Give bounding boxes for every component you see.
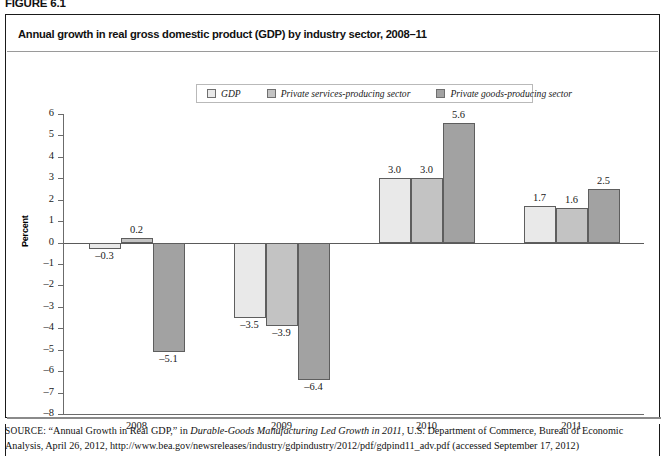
source-note: SOURCE: “Annual Growth in Real GDP,” in … xyxy=(5,424,660,452)
source-text-part1: “Annual Growth in Real GDP,” in xyxy=(46,425,190,436)
figure-container: Annual growth in real gross domestic pro… xyxy=(5,14,660,418)
source-prefix: SOURCE: xyxy=(5,426,46,436)
bar[interactable] xyxy=(121,238,153,242)
bar-value-label: –5.1 xyxy=(139,353,199,364)
y-axis-tick-label: –6 xyxy=(44,364,55,375)
bar[interactable] xyxy=(89,243,121,249)
bar-group-2011: 1.71.62.5 xyxy=(524,114,620,414)
y-axis-tick: –2 xyxy=(58,285,64,286)
y-axis-tick: –6 xyxy=(58,371,64,372)
y-axis-tick: –1 xyxy=(58,264,64,265)
y-axis-tick-label: –1 xyxy=(44,257,55,268)
bar[interactable] xyxy=(524,206,556,242)
y-axis-tick-label: 3 xyxy=(49,171,54,182)
y-axis-tick-label: –4 xyxy=(44,321,55,332)
bar[interactable] xyxy=(588,189,620,243)
bar[interactable] xyxy=(443,123,475,243)
bar[interactable] xyxy=(153,243,185,352)
y-axis-tick-label: –8 xyxy=(44,407,55,418)
y-axis-tick: –7 xyxy=(58,393,64,394)
bar-value-label: 2.5 xyxy=(574,175,634,186)
y-axis-tick-label: –5 xyxy=(44,343,55,354)
y-axis-tick: 1 xyxy=(58,221,64,222)
source-publication-title: Durable-Goods Manufacturing Led Growth i… xyxy=(190,425,401,436)
bar-value-label: 0.2 xyxy=(107,224,167,235)
y-axis-tick-label: 6 xyxy=(49,107,54,118)
y-axis-tick-label: 0 xyxy=(49,236,54,247)
bar[interactable] xyxy=(266,243,298,327)
y-axis-tick: 6 xyxy=(58,114,64,115)
bar[interactable] xyxy=(556,208,588,242)
bar[interactable] xyxy=(379,178,411,242)
plot-wrapper: Percent 6543210–1–2–3–4–5–6–7–8–0.30.2–5… xyxy=(6,15,661,419)
bar[interactable] xyxy=(234,243,266,318)
y-axis-tick: –5 xyxy=(58,350,64,351)
y-axis-tick-label: –3 xyxy=(44,300,55,311)
y-axis-tick: –3 xyxy=(58,307,64,308)
y-axis-tick: 3 xyxy=(58,178,64,179)
y-axis-tick-label: 1 xyxy=(49,214,54,225)
y-axis-tick-label: 2 xyxy=(49,193,54,204)
bar[interactable] xyxy=(298,243,330,380)
y-axis-title: Percent xyxy=(20,215,30,247)
bar-group-2010: 3.03.05.6 xyxy=(379,114,475,414)
y-axis-tick: –4 xyxy=(58,328,64,329)
y-axis-tick: 2 xyxy=(58,200,64,201)
figure-number-label: FIGURE 6.1 xyxy=(5,0,66,9)
y-axis-tick: 5 xyxy=(58,135,64,136)
y-axis-tick-label: 5 xyxy=(49,128,54,139)
bar-group-2009: –3.5–3.9–6.4 xyxy=(234,114,330,414)
bar-value-label: –6.4 xyxy=(284,381,344,392)
bar-value-label: 5.6 xyxy=(429,109,489,120)
y-axis-tick: –8 xyxy=(58,414,64,415)
plot-area: 6543210–1–2–3–4–5–6–7–8–0.30.2–5.12008–3… xyxy=(63,114,644,415)
y-axis-tick-label: –2 xyxy=(44,278,55,289)
bar-value-label: –0.3 xyxy=(75,250,135,261)
bar[interactable] xyxy=(411,178,443,242)
y-axis-tick-label: –7 xyxy=(44,386,55,397)
y-axis-tick-label: 4 xyxy=(49,150,54,161)
bar-group-2008: –0.30.2–5.1 xyxy=(89,114,185,414)
y-axis-tick: 4 xyxy=(58,157,64,158)
